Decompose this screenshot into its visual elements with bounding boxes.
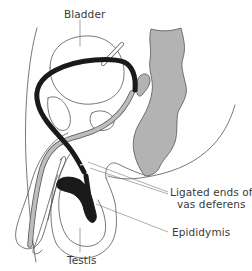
penis-inner-outline bbox=[33, 158, 62, 254]
epididymis-label: Epididymis bbox=[172, 226, 230, 238]
bladder-label: Bladder bbox=[64, 8, 105, 20]
epididymis bbox=[57, 177, 97, 222]
rectum bbox=[133, 28, 186, 176]
seminal-vesicle bbox=[137, 74, 150, 96]
ligated-ends-label-line2: vas deferens bbox=[170, 198, 252, 210]
penis-outline bbox=[16, 133, 70, 249]
ligated-ends-label: Ligated ends of vas deferens bbox=[170, 186, 252, 210]
ligated-ends-label-line1: Ligated ends of bbox=[170, 186, 252, 198]
testis-label: Testis bbox=[67, 254, 97, 266]
epididymis-leader-line bbox=[96, 204, 168, 232]
